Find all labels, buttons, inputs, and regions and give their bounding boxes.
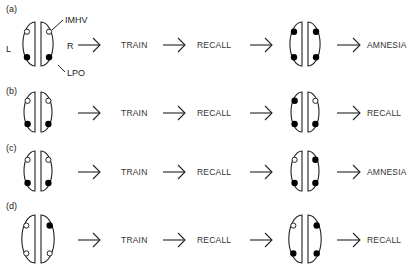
imhv-pointer-line — [52, 20, 63, 30]
lpo-pointer-line — [58, 65, 65, 72]
right-lpo-lesion-dot-filled — [45, 180, 51, 186]
arrow-to-outcome — [337, 233, 360, 247]
left-imhv-lesion-dot-filled — [291, 28, 297, 34]
arrow-to-brain-after — [250, 165, 272, 179]
step-train: TRAIN — [121, 167, 148, 177]
right-lpo-lesion-dot-filled — [312, 121, 318, 127]
label-imhv: IMHV — [65, 15, 88, 25]
right-imhv-intact-dot-open — [46, 29, 51, 34]
panel-label: (a) — [6, 4, 17, 14]
brain-after — [290, 22, 320, 66]
arrow-to-train — [78, 106, 100, 120]
arrow-to-recall — [163, 106, 185, 120]
arrow-to-brain-after — [250, 233, 272, 247]
left-imhv-intact-dot-open — [25, 157, 30, 162]
arrow-to-train — [78, 165, 100, 179]
left-lpo-lesion-dot-filled — [290, 250, 296, 256]
left-lpo-lesion-dot-filled — [24, 121, 30, 127]
right-imhv-lesion-dot-filled — [312, 157, 318, 163]
panel-label: (b) — [6, 86, 17, 96]
row-c: (c)TRAINRECALLAMNESIA — [6, 143, 407, 191]
step-train: TRAIN — [121, 40, 148, 50]
brain-before — [24, 92, 52, 132]
right-lpo-lesion-dot-filled — [313, 250, 319, 256]
arrow-to-recall — [163, 38, 185, 52]
row-a: (a)TRAINRECALLAMNESIA — [6, 4, 407, 66]
outcome-label: AMNESIA — [367, 40, 407, 50]
label-left-hemisphere: L — [6, 44, 11, 54]
arrow-to-train — [78, 233, 100, 247]
left-imhv-intact-dot-open — [24, 223, 29, 228]
right-hemisphere-outline — [41, 215, 54, 263]
arrow-to-recall — [163, 165, 185, 179]
right-imhv-lesion-dot-filled — [313, 28, 319, 34]
arrow-to-brain-after — [250, 106, 272, 120]
step-recall: RECALL — [197, 167, 231, 177]
label-lpo: LPO — [67, 68, 85, 78]
brain-after — [291, 92, 319, 132]
step-recall: RECALL — [197, 40, 231, 50]
right-lpo-lesion-dot-filled — [312, 180, 318, 186]
left-lpo-lesion-dot-filled — [24, 54, 30, 60]
arrow-to-outcome — [337, 38, 360, 52]
right-imhv-intact-dot-open — [46, 157, 51, 162]
right-imhv-lesion-dot-filled — [313, 222, 319, 228]
right-lpo-lesion-dot-filled — [46, 54, 52, 60]
left-lpo-intact-dot-open — [24, 251, 29, 256]
right-lpo-lesion-dot-filled — [45, 121, 51, 127]
left-lpo-lesion-dot-filled — [291, 180, 297, 186]
brain-before — [24, 151, 52, 191]
label-right-hemisphere: R — [67, 41, 74, 51]
brain-after — [291, 151, 319, 191]
step-recall: RECALL — [197, 108, 231, 118]
outcome-label: AMNESIA — [367, 167, 407, 177]
right-imhv-lesion-dot-filled — [46, 222, 52, 228]
step-recall: RECALL — [197, 235, 231, 245]
arrow-to-outcome — [337, 165, 360, 179]
right-lpo-lesion-dot-filled — [313, 54, 319, 60]
left-imhv-intact-dot-open — [292, 157, 297, 162]
right-imhv-intact-dot-open — [313, 98, 318, 103]
left-hemisphere-outline — [22, 215, 35, 263]
left-imhv-intact-dot-open — [291, 223, 296, 228]
brain-after — [289, 215, 321, 263]
left-imhv-intact-dot-open — [24, 29, 29, 34]
arrow-to-train — [78, 38, 100, 52]
step-train: TRAIN — [121, 235, 148, 245]
right-lpo-intact-dot-open — [47, 251, 52, 256]
row-d: (d)TRAINRECALLRECALL — [6, 201, 401, 263]
arrow-to-outcome — [337, 106, 360, 120]
left-lpo-lesion-dot-filled — [291, 121, 297, 127]
row-b: (b)TRAINRECALLRECALL — [6, 86, 401, 132]
left-lpo-lesion-dot-filled — [24, 180, 30, 186]
arrow-to-brain-after — [250, 38, 272, 52]
left-imhv-lesion-dot-filled — [291, 98, 297, 104]
arrow-to-recall — [163, 233, 185, 247]
left-lpo-lesion-dot-filled — [291, 54, 297, 60]
lesion-diagram: (a)TRAINRECALLAMNESIA(b)TRAINRECALLRECAL… — [0, 0, 415, 268]
brain-before — [22, 215, 54, 263]
panel-label: (c) — [6, 143, 17, 153]
right-imhv-intact-dot-open — [46, 98, 51, 103]
left-imhv-intact-dot-open — [25, 98, 30, 103]
step-train: TRAIN — [121, 108, 148, 118]
panel-label: (d) — [6, 201, 17, 211]
outcome-label: RECALL — [367, 108, 401, 118]
outcome-label: RECALL — [367, 235, 401, 245]
brain-before — [23, 22, 53, 66]
